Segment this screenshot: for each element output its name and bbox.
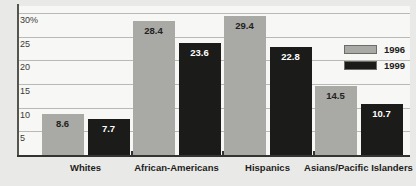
bar: 14.5 [315,86,357,155]
y-tick-label-5: 5 [20,133,25,143]
x-axis-tick [313,151,315,157]
x-axis-tick [131,151,133,157]
bar-value-label: 29.4 [224,20,266,31]
bar: 7.7 [88,119,130,155]
bar: 28.4 [133,21,175,155]
legend-item-1999: 1999 [344,59,412,72]
bar: 22.8 [270,47,312,155]
x-axis-baseline [17,155,410,157]
legend-swatch-1999 [344,61,377,70]
bar-value-label: 28.4 [133,25,175,36]
y-tick-label-10: 10 [20,110,30,120]
gridline-25 [18,37,410,38]
y-axis-line [17,4,19,156]
bar-value-label: 23.6 [179,47,221,58]
bar: 23.6 [179,43,221,155]
bar: 10.7 [361,104,403,155]
y-tick-label-30: 30% [20,15,38,25]
legend-swatch-1996 [344,45,377,54]
legend-label-1999: 1999 [384,60,405,71]
x-axis-tick [222,151,224,157]
gridline-30 [18,13,410,14]
bar-value-label: 14.5 [315,90,357,101]
bar-value-label: 7.7 [88,123,130,134]
bar-value-label: 8.6 [42,118,84,129]
bar-value-label: 10.7 [361,108,403,119]
y-tick-label-20: 20 [20,62,30,72]
bar: 8.6 [42,114,84,155]
legend-item-1996: 1996 [344,43,412,56]
grouped-bar-chart: 8.67.728.423.629.422.814.510.7 510152025… [0,0,416,186]
y-tick-label-15: 15 [20,86,30,96]
bar-value-label: 22.8 [270,51,312,62]
plot-area: 8.67.728.423.629.422.814.510.7 [18,6,410,156]
x-category-label: Asians/Pacific Islanders [294,162,416,173]
bar: 29.4 [224,16,266,155]
legend: 1996 1999 [344,43,412,75]
y-tick-label-25: 25 [20,39,30,49]
legend-label-1996: 1996 [384,44,405,55]
